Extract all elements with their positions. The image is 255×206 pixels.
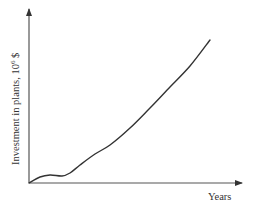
x-axis-label: Years [208,191,231,202]
investment-curve [29,40,210,183]
y-axis-label: Investment in plants, 106 $ [9,53,21,165]
chart: Years Investment in plants, 106 $ [0,0,255,206]
